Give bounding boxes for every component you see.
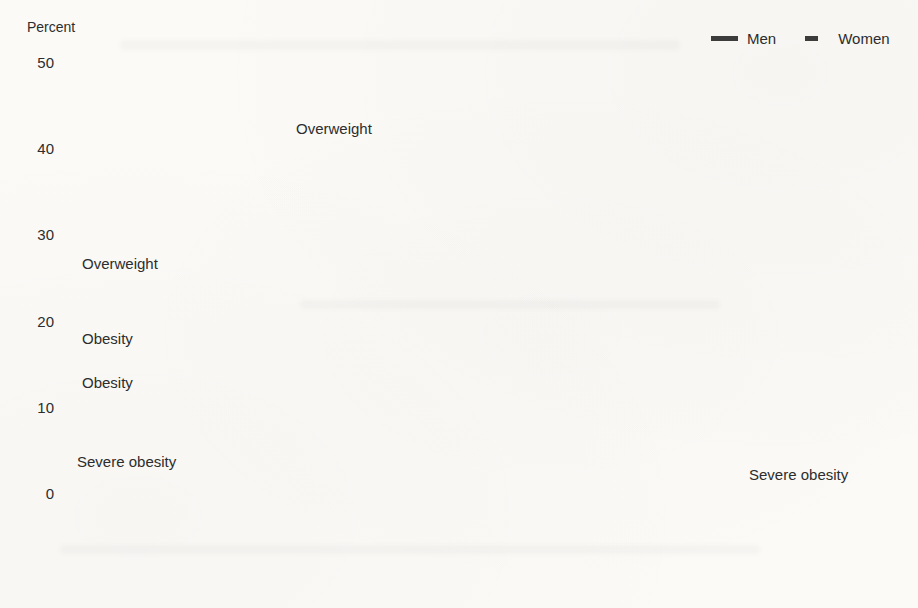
- legend-label-women: Women: [838, 30, 889, 47]
- annotation-overweight-women: Overweight: [82, 255, 158, 272]
- annotation-overweight-men: Overweight: [296, 120, 372, 137]
- y-tick-label: 0: [18, 485, 54, 502]
- legend-label-men: Men: [747, 30, 776, 47]
- annotation-severe-obesity-women: Severe obesity: [77, 453, 176, 470]
- trend-line-chart: [0, 0, 918, 608]
- women-dashed-line-swatch-icon: [805, 36, 818, 41]
- scanned-figure-page: Percent 50 40 30 20 10 0 Men Women Overw…: [0, 0, 918, 608]
- men-solid-line-swatch-icon: [711, 36, 738, 41]
- y-axis-unit-label: Percent: [27, 19, 75, 35]
- annotation-obesity-women: Obesity: [82, 330, 133, 347]
- annotation-severe-obesity-men: Severe obesity: [749, 466, 848, 483]
- y-tick-label: 50: [18, 54, 54, 71]
- y-tick-label: 10: [18, 399, 54, 416]
- annotation-obesity-men: Obesity: [82, 374, 133, 391]
- y-tick-label: 30: [18, 226, 54, 243]
- y-tick-label: 40: [18, 140, 54, 157]
- legend: Men Women: [711, 30, 890, 47]
- y-tick-label: 20: [18, 313, 54, 330]
